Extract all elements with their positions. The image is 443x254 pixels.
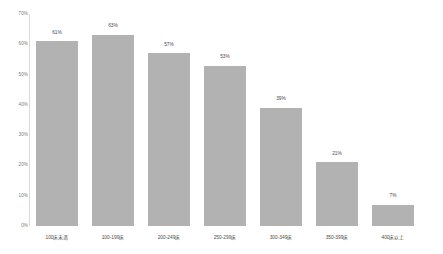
bar-value-label: 53% — [204, 55, 246, 60]
bar-slot: 63% — [92, 14, 134, 226]
y-tick-label: 20% — [19, 163, 29, 168]
bar-slot: 61% — [36, 14, 78, 226]
x-tick-label: 250-299床 — [214, 236, 237, 241]
x-tick-label: 300-349床 — [270, 236, 293, 241]
y-tick-label: 10% — [19, 193, 29, 198]
x-tick-label: 200-249床 — [158, 236, 181, 241]
bar-value-label: 61% — [36, 31, 78, 36]
x-axis: 100床未満 100-199床 200-249床 250-299床 300-34… — [30, 228, 436, 248]
x-tick-label: 100-199床 — [102, 236, 125, 241]
y-tick-label: 30% — [19, 133, 29, 138]
bar[interactable] — [36, 41, 78, 226]
bar-slot: 21% — [316, 14, 358, 226]
x-tick-label: 100床未満 — [45, 236, 68, 241]
bar[interactable] — [372, 205, 414, 226]
y-tick-label: 0% — [21, 224, 28, 229]
y-tick-label: 70% — [19, 12, 29, 17]
bar-slot: 7% — [372, 14, 414, 226]
y-tick-label: 40% — [19, 103, 29, 108]
bar-value-label: 39% — [260, 97, 302, 102]
bar-slot: 53% — [204, 14, 246, 226]
plot-area: 61% 63% 57% 53% 39% 21% 7% — [30, 14, 436, 226]
y-tick-label: 60% — [19, 42, 29, 47]
bar[interactable] — [148, 53, 190, 226]
bar[interactable] — [92, 35, 134, 226]
y-axis: 70% 60% 50% 40% 30% 20% 10% 0% — [0, 0, 30, 254]
bar-value-label: 63% — [92, 24, 134, 29]
x-tick-label: 350-399床 — [326, 236, 349, 241]
bar[interactable] — [316, 162, 358, 226]
x-tick-label: 400床以上 — [381, 236, 404, 241]
y-tick-label: 50% — [19, 72, 29, 77]
bar[interactable] — [260, 108, 302, 226]
bar-value-label: 57% — [148, 43, 190, 48]
bar-value-label: 21% — [316, 152, 358, 157]
bar[interactable] — [204, 66, 246, 227]
bar-slot: 39% — [260, 14, 302, 226]
bar-slot: 57% — [148, 14, 190, 226]
bar-value-label: 7% — [372, 194, 414, 199]
bar-chart: 70% 60% 50% 40% 30% 20% 10% 0% 61% 63% 5… — [0, 0, 443, 254]
